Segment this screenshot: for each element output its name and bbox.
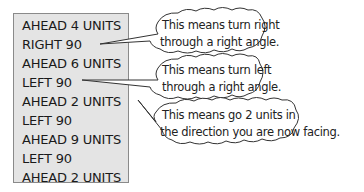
callout-1-line-2: through a right angle. [160, 34, 279, 51]
callout-3-line-2: the direction you are now facing. [160, 124, 340, 141]
callout-2-line-1: This means turn left [162, 62, 271, 79]
callout-1-line-1: This means turn right [162, 17, 279, 34]
callout-3-line-1: This means go 2 units in [162, 107, 296, 124]
callout-2-line-2: through a right angle. [162, 79, 281, 96]
